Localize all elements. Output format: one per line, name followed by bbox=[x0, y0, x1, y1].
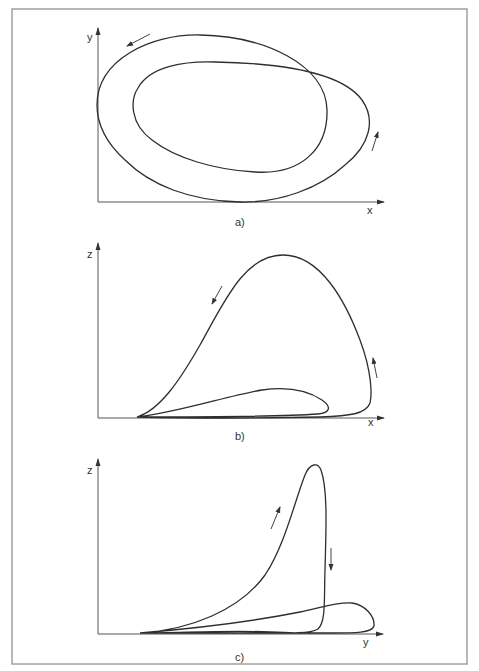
panel-b-x-axis-label: x bbox=[368, 416, 374, 428]
figure-frame bbox=[12, 9, 467, 664]
panel-c-label: c) bbox=[235, 651, 244, 663]
panel-c: z y c) bbox=[87, 459, 383, 663]
panel-c-y-axis-label: y bbox=[363, 636, 369, 648]
panel-b-orbit bbox=[137, 255, 371, 418]
panel-b-flow-arrow-left bbox=[212, 286, 222, 304]
panel-c-orbit bbox=[140, 465, 374, 633]
panel-b-label: b) bbox=[235, 430, 245, 442]
panel-a-y-axis-label: y bbox=[87, 31, 93, 43]
panel-a-flow-arrow-right bbox=[372, 132, 378, 151]
panel-a-x-axis-label: x bbox=[367, 204, 373, 216]
limit-cycle-figure: y x a) z x b) z y c) bbox=[0, 0, 479, 671]
panel-b-flow-arrow-right bbox=[373, 358, 377, 378]
panel-a-orbit-outer bbox=[97, 35, 369, 202]
panel-b-z-axis-label: z bbox=[87, 248, 93, 260]
panel-c-flow-arrow-up bbox=[271, 507, 280, 529]
panel-a: y x a) bbox=[87, 28, 384, 228]
panel-b: z x b) bbox=[87, 243, 384, 442]
panel-c-z-axis-label: z bbox=[87, 464, 93, 476]
panel-a-label: a) bbox=[235, 216, 245, 228]
